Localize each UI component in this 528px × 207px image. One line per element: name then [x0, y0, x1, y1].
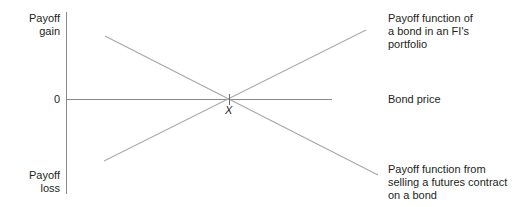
- payoff-loss-label: Payoff loss: [20, 169, 60, 195]
- futures-payoff-label: Payoff function from selling a futures c…: [388, 163, 507, 202]
- bond-price-label: Bond price: [388, 93, 441, 106]
- futures-payoff-line: [105, 36, 378, 175]
- bond-payoff-line: [104, 30, 366, 161]
- bond-payoff-label: Payoff function of a bond in an FI's por…: [388, 12, 473, 51]
- zero-label: 0: [40, 93, 60, 106]
- intersection-x-label: X: [225, 104, 232, 117]
- payoff-gain-label: Payoff gain: [20, 12, 60, 38]
